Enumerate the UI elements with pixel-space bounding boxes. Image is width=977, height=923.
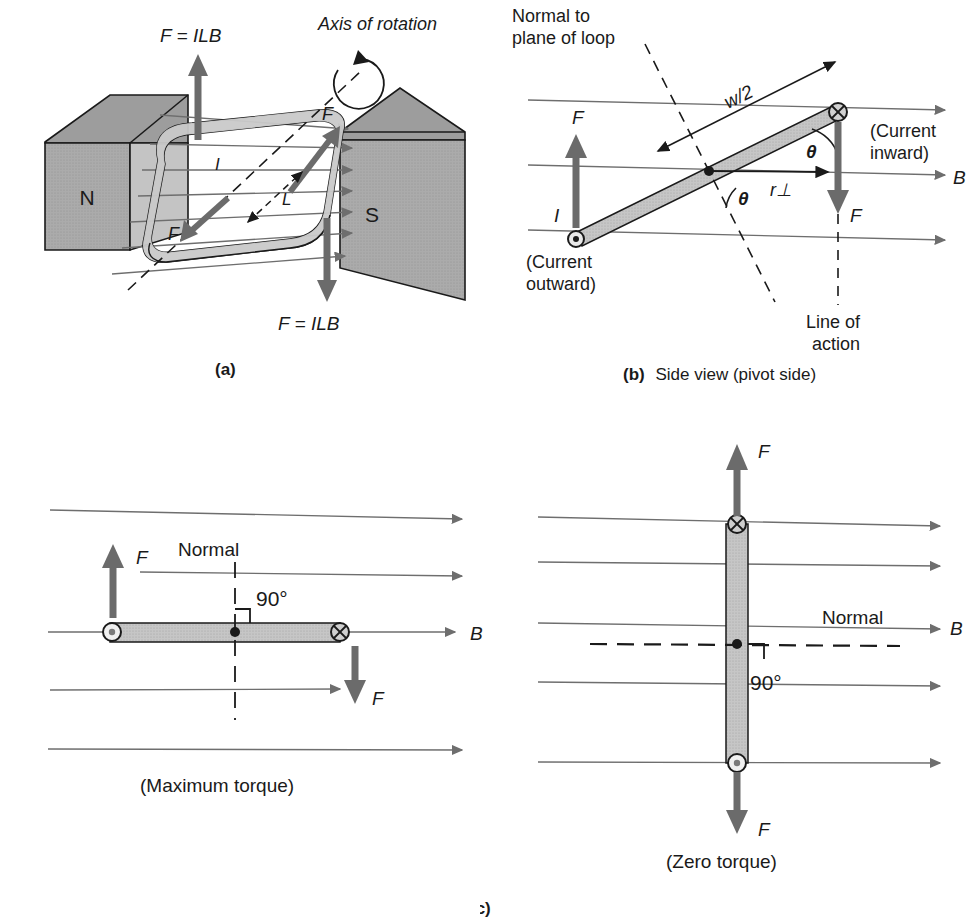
right-angle-marker-c-right <box>748 644 764 659</box>
physics-figure: N S <box>0 0 977 923</box>
force-down-label-c-right: F <box>758 819 771 840</box>
force-top-label: F = ILB <box>160 25 222 46</box>
current-out-marker-c-left <box>103 623 121 641</box>
condition-label-c-left: (Maximum torque) <box>140 775 294 796</box>
panel-c-right: B Normal 90° F <box>480 420 977 923</box>
panel-a-caption: (a) <box>215 360 236 379</box>
svg-text:(b) Side view (pivot sid: (b) Side view (pivot side) <box>623 365 816 384</box>
force-right-label-b: F <box>850 205 863 226</box>
current-out-marker <box>568 231 584 247</box>
r-perp-arrow <box>709 171 828 172</box>
magnet-north-label: N <box>79 186 94 209</box>
loop-cross-section-c-left <box>110 623 340 642</box>
force-up-arrow-c-right <box>726 444 748 516</box>
force-bottom-label: F = ILB <box>278 313 340 334</box>
normal-label-c-right: Normal <box>822 607 883 628</box>
force-up-arrow-b <box>565 134 587 228</box>
current-inward-line2: inward) <box>870 143 929 163</box>
force-down-arrow-c-right <box>726 772 748 834</box>
force-down-arrow-b <box>827 122 849 214</box>
normal-label-b-line2: plane of loop <box>512 28 615 48</box>
panel-b: B Normal to plane of loop w/2 <box>490 0 977 400</box>
current-in-marker-c-right <box>728 515 746 533</box>
panel-c-caption: (c) <box>480 899 491 918</box>
force-down-label-c-left: F <box>372 688 385 709</box>
panel-b-caption-bold: (b) <box>623 365 645 384</box>
current-in-marker <box>829 103 847 121</box>
condition-label-c-right: (Zero torque) <box>666 851 777 872</box>
theta-lower-label: θ <box>738 188 749 209</box>
axis-of-rotation-label: Axis of rotation <box>317 14 437 34</box>
current-outward-line2: outward) <box>526 274 596 294</box>
panel-b-caption-rest: Side view (pivot side) <box>655 365 816 384</box>
magnet-north: N <box>45 95 188 250</box>
panel-a: N S <box>0 0 500 400</box>
length-label: L <box>282 190 291 209</box>
panel-c-left: B Normal 90° F <box>0 420 500 820</box>
angle-label-c-left: 90° <box>256 587 288 610</box>
current-inward-line1: (Current <box>870 121 936 141</box>
theta-upper-label: θ <box>806 141 817 162</box>
force-upper-right-label: F <box>322 104 334 124</box>
r-perp-label: r⊥ <box>770 180 792 200</box>
magnet-south-label: S <box>365 203 379 226</box>
current-outward-line1: (Current <box>526 252 592 272</box>
force-up-label-c-left: F <box>136 547 149 568</box>
force-down-arrow-c-left <box>344 646 366 704</box>
theta-arc-lower <box>726 188 736 208</box>
rotation-arc-icon <box>334 50 384 109</box>
half-width-label: w/2 <box>721 81 757 113</box>
current-label-b: I <box>554 205 560 226</box>
current-label-a: I <box>215 155 220 174</box>
current-in-marker-c-left <box>331 623 349 641</box>
normal-label-c-left: Normal <box>178 539 239 560</box>
current-out-marker-c-right <box>728 754 746 772</box>
line-of-action-label-line1: Line of <box>806 312 861 332</box>
force-up-label-c-right: F <box>758 441 771 462</box>
right-angle-marker-c-left <box>235 609 250 623</box>
force-left-label-b: F <box>572 107 585 128</box>
normal-label-b-line1: Normal to <box>512 6 590 26</box>
magnet-south: S <box>340 88 465 300</box>
angle-label-c-right: 90° <box>750 671 782 694</box>
force-up-arrow-c-left <box>102 544 124 618</box>
field-label-b: B <box>953 167 966 188</box>
force-lower-left-label: F <box>168 224 180 244</box>
line-of-action-label-line2: action <box>812 334 860 354</box>
field-label-c-right: B <box>950 618 963 639</box>
